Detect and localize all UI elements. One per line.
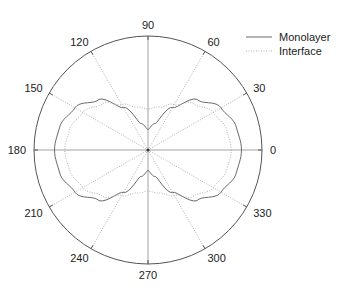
tick-label-0: 0 [270,144,276,156]
tick-label-300: 300 [208,252,226,264]
tick-label-120: 120 [70,36,88,48]
tick-mark-300 [203,245,205,248]
tick-mark-30 [243,93,246,95]
tick-mark-150 [49,93,52,95]
tick-mark-240 [91,245,93,248]
polar-chart: 0306090120150180210240270300330 Monolaye… [0,0,341,295]
tick-label-210: 210 [24,207,42,219]
tick-label-180: 180 [8,144,26,156]
tick-label-90: 90 [142,19,154,31]
grid-spoke-330 [148,150,247,207]
origin-dot [146,148,149,151]
tick-mark-330 [243,205,246,207]
tick-label-30: 30 [253,82,265,94]
grid-spoke-210 [49,150,148,207]
legend: Monolayer Interface [246,31,331,57]
tick-mark-60 [203,51,205,54]
tick-label-60: 60 [208,36,220,48]
tick-mark-120 [91,51,93,54]
grid-spoke-150 [49,93,148,150]
tick-label-240: 240 [70,252,88,264]
tick-label-270: 270 [139,269,157,281]
tick-mark-210 [49,205,52,207]
tick-label-330: 330 [253,207,271,219]
grid-spoke-300 [148,150,205,249]
grid-spoke-240 [91,150,148,249]
legend-label-monolayer: Monolayer [279,31,331,43]
tick-label-150: 150 [24,82,42,94]
grid-spoke-60 [148,51,205,150]
legend-label-interface: Interface [279,45,322,57]
grid-spoke-120 [91,51,148,150]
grid-spoke-30 [148,93,247,150]
